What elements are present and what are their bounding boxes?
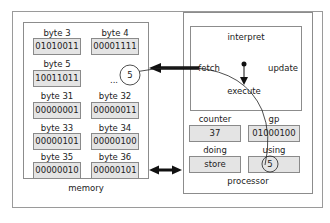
arrows-overlay [0, 0, 330, 223]
bidirectional-arrow-icon [149, 166, 182, 175]
memory-marker-value: 5 [125, 70, 135, 80]
using-value: 5 [265, 159, 275, 169]
execute-arrow-icon [240, 62, 248, 86]
fetch-path-curve [127, 68, 268, 165]
